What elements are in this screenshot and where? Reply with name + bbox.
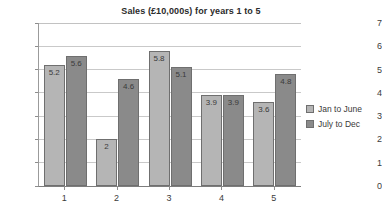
bar-value-label: 4.8 — [276, 77, 295, 86]
x-axis-tick-mark — [117, 186, 118, 190]
x-axis-tick-label: 3 — [147, 193, 191, 203]
legend-item[interactable]: July to Dec — [306, 116, 382, 131]
x-axis-tick-label: 4 — [199, 193, 243, 203]
plot-area: 5.25.624.65.85.13.93.93.64.8 — [38, 23, 301, 187]
bar: 5.2 — [44, 65, 65, 186]
x-axis-tick-label: 1 — [42, 193, 86, 203]
bar-value-label: 4.6 — [119, 82, 138, 91]
y-axis-tick-label: 5 — [356, 65, 382, 75]
bar: 5.8 — [149, 51, 170, 186]
legend-swatch-icon — [306, 120, 314, 128]
y-axis-tick-label: 2 — [356, 134, 382, 144]
y-axis-tick-label: 4 — [356, 88, 382, 98]
bar: 2 — [96, 139, 117, 186]
bar-group: 5.85.1 — [149, 23, 192, 186]
bar-group: 3.64.8 — [253, 23, 296, 186]
y-axis-tick-label: 6 — [356, 41, 382, 51]
bar-group: 3.93.9 — [201, 23, 244, 186]
legend-item[interactable]: Jan to June — [306, 101, 382, 116]
y-axis-tick-label: 1 — [356, 158, 382, 168]
bar-value-label: 5.8 — [150, 54, 169, 63]
bar-group: 24.6 — [96, 23, 139, 186]
x-axis-tick-mark — [169, 186, 170, 190]
bar: 4.6 — [118, 79, 139, 186]
bar-group: 5.25.6 — [44, 23, 87, 186]
bar-value-label: 3.6 — [254, 105, 273, 114]
x-axis-tick-mark — [64, 186, 65, 190]
bar: 3.6 — [253, 102, 274, 186]
bar-value-label: 5.1 — [172, 70, 191, 79]
bar: 5.1 — [171, 67, 192, 186]
bar: 5.6 — [66, 56, 87, 186]
x-axis-tick-mark — [221, 186, 222, 190]
chart-title: Sales (£10,000s) for years 1 to 5 — [0, 6, 382, 16]
y-axis-tick-label: 7 — [356, 18, 382, 28]
bar-value-label: 5.6 — [67, 59, 86, 68]
x-axis-tick-label: 2 — [95, 193, 139, 203]
y-axis-tick-label: 0 — [356, 181, 382, 191]
legend-item-label: July to Dec — [318, 119, 360, 129]
legend-swatch-icon — [306, 105, 314, 113]
bar: 3.9 — [223, 95, 244, 186]
bar: 3.9 — [201, 95, 222, 186]
bar-value-label: 2 — [97, 142, 116, 151]
bar-value-label: 3.9 — [224, 98, 243, 107]
bar-chart: Sales (£10,000s) for years 1 to 5 012345… — [0, 0, 382, 216]
x-axis-tick-mark — [274, 186, 275, 190]
x-axis-tick-label: 5 — [252, 193, 296, 203]
bar: 4.8 — [275, 74, 296, 186]
bar-value-label: 3.9 — [202, 98, 221, 107]
chart-legend: Jan to JuneJuly to Dec — [306, 101, 382, 131]
bar-value-label: 5.2 — [45, 68, 64, 77]
legend-item-label: Jan to June — [318, 104, 362, 114]
